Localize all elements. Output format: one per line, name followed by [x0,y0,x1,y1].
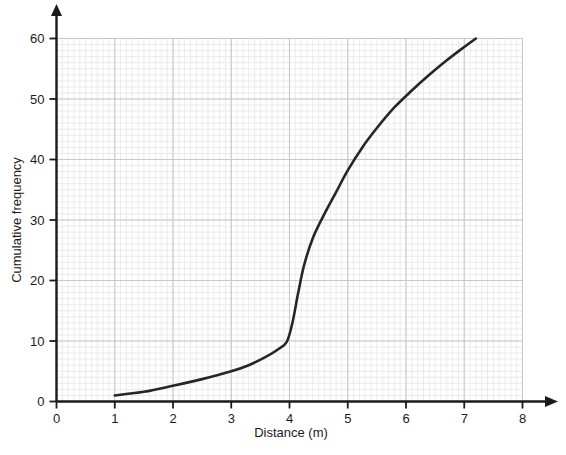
chart-canvas: 012345678 0102030405060 Distance (m) Cum… [0,0,566,455]
x-tick-label: 7 [461,411,468,426]
x-tick-label: 2 [169,411,176,426]
y-tick-label: 60 [30,31,44,46]
top-partial-caption [95,0,515,6]
y-tick-label: 0 [37,394,44,409]
x-tick-labels: 012345678 [53,411,526,426]
cumulative-frequency-chart: 012345678 0102030405060 Distance (m) Cum… [0,0,566,455]
x-tick-label: 1 [111,411,118,426]
y-tick-labels: 0102030405060 [30,31,44,409]
x-tick-label: 8 [519,411,526,426]
x-tick-label: 0 [53,411,60,426]
x-tick-label: 4 [286,411,293,426]
y-axis-title: Cumulative frequency [9,157,24,283]
x-tick-label: 6 [402,411,409,426]
x-tick-label: 5 [344,411,351,426]
y-tick-label: 20 [30,273,44,288]
y-tick-label: 50 [30,92,44,107]
y-tick-label: 30 [30,213,44,228]
y-tick-label: 10 [30,334,44,349]
x-tick-label: 3 [228,411,235,426]
y-tick-label: 40 [30,152,44,167]
x-axis-title: Distance (m) [254,425,328,440]
